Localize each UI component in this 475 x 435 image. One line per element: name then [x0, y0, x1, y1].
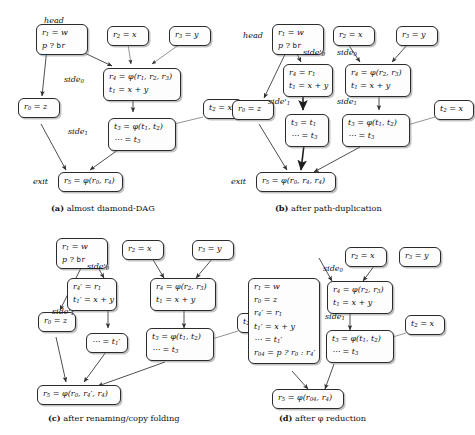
panel-b-label-side1-prime: side'1	[268, 97, 290, 106]
panel-b-label-side0-prime: side'0	[303, 48, 325, 57]
node-line: r2 = x	[339, 29, 369, 42]
node-line: t2 = x	[411, 318, 439, 331]
node-line: t3 = φ(t1, t2)	[114, 121, 170, 134]
node-line: r2 = x	[128, 243, 158, 256]
panel-d-side1-node[interactable]: t3 = φ(t1, t2) ⋯ = t3	[326, 330, 394, 363]
panel-c-side0-prime-node[interactable]: r4′ = r1 t1′ = x + y	[67, 278, 117, 311]
node-line: r0 = z	[254, 294, 314, 307]
panel-c-side1-node[interactable]: t3 = φ(t1, t2) ⋯ = t3	[146, 328, 214, 361]
panel-c-side0-node[interactable]: r4 = φ(r2, r3) t1 = x + y	[150, 278, 216, 311]
node-line: r3 = y	[405, 250, 435, 263]
panel-d-caption-tag: (d)	[279, 413, 292, 423]
panel-c-exit-node[interactable]: r5 = φ(r0, r4′, r4)	[37, 385, 121, 405]
panel-a-label-exit: exit	[33, 177, 48, 186]
node-line: r0 = z	[44, 315, 70, 328]
panel-b-caption: (b) after path-duplication	[275, 203, 382, 213]
panel-b-side0-prime-node[interactable]: r4 = r1 t1 = x + y	[283, 64, 333, 97]
node-line: r2 = x	[113, 29, 143, 42]
panel-c-r3-node[interactable]: r3 = y	[192, 240, 234, 260]
node-line: r3 = y	[402, 29, 432, 42]
node-line: r0 = z	[24, 101, 54, 114]
node-line: r3 = y	[198, 243, 228, 256]
panel-a-r3-node[interactable]: r3 = y	[169, 26, 211, 46]
panel-d-caption: (d) after φ reduction	[279, 413, 366, 423]
panel-a-exit-node[interactable]: r5 = φ(r0, r4)	[58, 172, 123, 192]
panel-d-merged-node[interactable]: r1 = w r0 = z r4′ = r1 t1′ = x + y ⋯ = t…	[248, 278, 320, 364]
node-line: t1′ = x + y	[254, 321, 314, 334]
node-line: t1 = x + y	[351, 80, 405, 93]
panel-a-caption-text: almost diamond-DAG	[67, 203, 155, 213]
node-line: t3 = φ(t1, t2)	[348, 117, 404, 130]
panel-c-label-side1-prime: side'1	[52, 307, 74, 316]
panel-b-t2-node[interactable]: t2 = x	[434, 100, 474, 120]
panel-d-side0-node[interactable]: r4 = φ(r2, r3) t1 = x + y	[327, 281, 393, 314]
panel-a-side0-node[interactable]: r4 = φ(r1, r2, r3) t1 = x + y	[103, 68, 181, 101]
panel-a-caption: (a) almost diamond-DAG	[51, 203, 155, 213]
node-line: ⋯ = t3	[332, 346, 388, 359]
panel-c-caption-tag: (c)	[48, 413, 61, 423]
panel-b-side1-node[interactable]: t3 = φ(t1, t2) ⋯ = t3	[342, 114, 410, 147]
node-line: t2 = x	[440, 103, 468, 116]
panel-a-head-node[interactable]: r1 = w p ? br	[36, 24, 88, 55]
node-line: t1′ = x + y	[73, 294, 111, 307]
node-line: t1 = x + y	[333, 297, 387, 310]
node-line: ⋯ = t3	[348, 130, 404, 143]
panel-d-caption-text: after φ reduction	[295, 413, 366, 423]
node-line: t3 = φ(t1, t2)	[332, 333, 388, 346]
node-line: t1 = x + y	[156, 294, 210, 307]
panel-a-edges	[41, 44, 203, 170]
panel-a-caption-tag: (a)	[51, 203, 64, 213]
panel-c-caption-text: after renaming/copy folding	[63, 413, 179, 423]
panel-b-label-side0: side0	[337, 48, 357, 57]
panel-b-side0-node[interactable]: r4 = φ(r2, r3) t1 = x + y	[345, 64, 411, 97]
panel-c-caption: (c) after renaming/copy folding	[48, 413, 179, 423]
node-line: p ? br	[42, 40, 82, 51]
node-line: r4 = r1	[289, 67, 327, 80]
panel-d-label-side1: side1	[325, 312, 345, 321]
node-line: r4′ = r1	[254, 307, 314, 320]
node-line: ⋯ = t3	[114, 134, 170, 147]
panel-b-label-exit: exit	[231, 177, 246, 186]
panel-b-label-head: head	[243, 31, 263, 40]
node-line: r1 = w	[62, 241, 102, 254]
node-line: r3 = y	[175, 29, 205, 42]
panel-b-r3-node[interactable]: r3 = y	[396, 26, 438, 46]
node-line: r5 = φ(r0, r4, r4)	[262, 175, 330, 188]
panel-d-r3-node[interactable]: r3 = y	[399, 247, 441, 267]
panel-a-r0-node[interactable]: r0 = z	[18, 98, 60, 118]
node-line: ⋯ = t3	[291, 130, 323, 143]
node-line: t1 = x + y	[109, 84, 175, 97]
panel-c-label-side0-prime: side'0	[87, 262, 109, 271]
panel-d-exit-node[interactable]: r5 = φ(r04, r4)	[272, 389, 344, 409]
node-line: r1 = w	[254, 281, 314, 294]
node-line: ⋯ = t1′	[92, 336, 122, 349]
panel-c-side1-prime-node[interactable]: ⋯ = t1′	[86, 333, 128, 353]
node-line: ⋯ = t3	[152, 344, 208, 357]
panel-b-exit-node[interactable]: r5 = φ(r0, r4, r4)	[256, 172, 336, 192]
panel-b-r2-node[interactable]: r2 = x	[333, 26, 375, 46]
node-line: t1 = x + y	[289, 80, 327, 93]
panel-a-side1-node[interactable]: t3 = φ(t1, t2) ⋯ = t3	[108, 118, 176, 151]
node-line: r1 = w	[278, 27, 318, 40]
node-line: r4 = φ(r2, r3)	[156, 281, 210, 294]
panel-b-label-side1: side1	[337, 97, 357, 106]
panel-d-label-side0: side0	[323, 264, 343, 273]
panel-b-side1-prime-node[interactable]: t3 = t1 ⋯ = t3	[285, 114, 329, 147]
node-line: r2 = x	[351, 250, 381, 263]
node-line: r5 = φ(r04, r4)	[278, 392, 338, 405]
panel-a-r2-node[interactable]: r2 = x	[107, 26, 149, 46]
node-line: r0 = z	[238, 103, 268, 116]
panel-d-t2-node[interactable]: t2 = x	[405, 315, 445, 335]
panel-a-label-side1: side1	[68, 127, 88, 136]
node-line: ⋯ = t1′	[254, 334, 314, 347]
panel-b-edges	[259, 44, 435, 172]
panel-b-caption-tag: (b)	[275, 203, 288, 213]
panel-b-caption-text: after path-duplication	[291, 203, 382, 213]
node-line: r5 = φ(r0, r4′, r4)	[43, 388, 115, 401]
panel-d-r2-node[interactable]: r2 = x	[345, 247, 387, 267]
node-line: r04 = p ? r0 : r4′	[254, 347, 314, 360]
node-line: r4 = φ(r2, r3)	[351, 67, 405, 80]
panel-c-r2-node[interactable]: r2 = x	[122, 240, 164, 260]
node-line: r4′ = r1	[73, 281, 111, 294]
node-line: t3 = φ(t1, t2)	[152, 331, 208, 344]
